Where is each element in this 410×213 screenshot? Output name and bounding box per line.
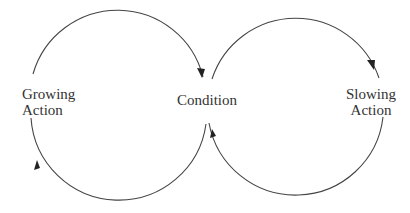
arrow-down-icon (197, 68, 205, 78)
node-slowing-action-line1: Slowing (345, 86, 397, 102)
node-slowing-action-line2: Action (345, 102, 397, 118)
node-condition: Condition (177, 92, 237, 108)
node-growing-action-line2: Action (22, 102, 75, 118)
growth-loop-lower-arc (31, 118, 206, 200)
node-slowing-action: Slowing Action (345, 86, 397, 118)
node-growing-action: Growing Action (22, 86, 75, 118)
node-condition-label: Condition (177, 92, 237, 108)
growth-loop-upper-arc (33, 10, 203, 77)
causal-loop-diagram: Growing Action Condition Slowing Action (0, 0, 410, 213)
arrow-up-icon (34, 160, 40, 170)
arrow-down-icon (367, 60, 375, 70)
slowing-loop-lower-arc (209, 117, 383, 195)
slowing-loop-upper-arc (212, 18, 379, 79)
node-growing-action-line1: Growing (22, 86, 75, 102)
